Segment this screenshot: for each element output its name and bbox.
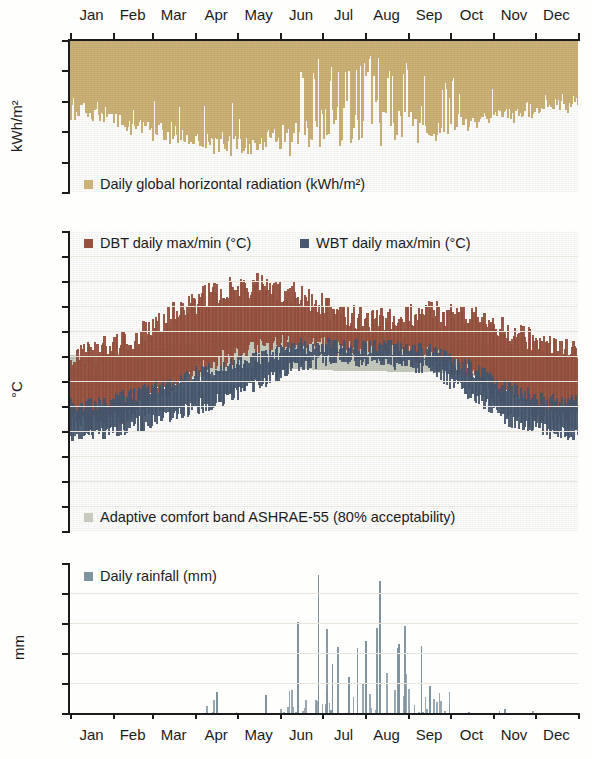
rainfall-notable-event-bar — [429, 686, 431, 713]
temperature-y-axis-line — [68, 231, 70, 533]
month-label-may: May — [244, 726, 272, 743]
rainfall-notable-event-bar — [297, 622, 299, 714]
x-tick — [535, 713, 537, 719]
legend-radiation: Daily global horizontal radiation (kWh/m… — [84, 176, 365, 192]
dbt-legend-swatch — [84, 239, 93, 248]
month-label-nov: Nov — [501, 6, 528, 23]
x-tick — [195, 33, 197, 39]
rainfall-day-bar — [357, 648, 359, 713]
radiation-y-axis-line — [68, 40, 70, 194]
radiation-series — [70, 40, 578, 192]
rainfall-notable-event-bar — [365, 641, 367, 713]
rainfall-day-bar — [305, 700, 307, 713]
rainfall-day-bar — [440, 701, 442, 713]
gridline — [70, 306, 578, 307]
x-tick — [237, 33, 239, 39]
rainfall-legend-swatch — [84, 572, 93, 581]
x-tick — [152, 713, 154, 719]
x-tick — [195, 713, 197, 719]
month-label-oct: Oct — [460, 6, 483, 23]
temperature-y-axis-title: °C — [8, 381, 25, 398]
month-label-mar: Mar — [161, 726, 187, 743]
x-tick — [408, 33, 410, 39]
month-label-dec: Dec — [543, 726, 570, 743]
rainfall-y-axis-line — [68, 563, 70, 715]
wbt-legend-swatch — [300, 239, 309, 248]
x-tick — [70, 33, 72, 39]
month-label-apr: Apr — [204, 726, 227, 743]
x-tick — [152, 33, 154, 39]
climate-analysis-figure: JanFebMarAprMayJunJulAugSepOctNovDec kWh… — [0, 0, 592, 759]
x-tick — [365, 713, 367, 719]
gridline — [70, 653, 578, 654]
rainfall-day-bar — [213, 700, 215, 713]
rainfall-notable-event-bar — [318, 575, 320, 713]
dbt-legend-label: DBT daily max/min (°C) — [100, 235, 251, 251]
x-tick — [365, 33, 367, 39]
rainfall-day-bar — [408, 689, 410, 713]
month-label-feb: Feb — [120, 726, 146, 743]
radiation-legend-swatch — [84, 180, 93, 189]
gridline — [70, 381, 578, 382]
month-label-feb: Feb — [120, 6, 146, 23]
legend-rainfall: Daily rainfall (mm) — [84, 568, 217, 584]
x-tick — [113, 713, 115, 719]
rainfall-day-bar — [206, 706, 208, 713]
x-tick — [322, 33, 324, 39]
x-tick — [450, 713, 452, 719]
rainfall-day-bar — [436, 702, 438, 713]
x-tick — [450, 33, 452, 39]
rainfall-day-bar — [322, 704, 324, 713]
gridline — [70, 506, 578, 507]
rainfall-series — [70, 563, 578, 713]
month-label-jan: Jan — [79, 6, 103, 23]
x-tick — [578, 713, 580, 719]
legend-wbt: WBT daily max/min (°C) — [300, 235, 471, 251]
gridline — [70, 406, 578, 407]
x-tick — [535, 33, 537, 39]
x-tick — [280, 713, 282, 719]
rainfall-plot-area — [70, 563, 578, 713]
wbt-legend-label: WBT daily max/min (°C) — [316, 235, 471, 251]
month-label-jul: Jul — [334, 726, 353, 743]
temperature-plot-area — [70, 231, 578, 531]
gridline — [70, 593, 578, 594]
month-label-jan: Jan — [79, 726, 103, 743]
month-label-aug: Aug — [373, 726, 400, 743]
rainfall-y-axis-title: mm — [10, 635, 27, 660]
radiation-x-axis-line — [68, 39, 580, 41]
rainfall-day-bar — [405, 674, 407, 713]
radiation-day-bar — [577, 40, 578, 105]
radiation-plot-area — [70, 40, 578, 192]
gridline — [70, 623, 578, 624]
comfort-band-legend-swatch — [84, 513, 93, 522]
radiation-legend-label: Daily global horizontal radiation (kWh/m… — [100, 176, 365, 192]
rainfall-day-bar — [386, 673, 388, 713]
rainfall-notable-event-bar — [216, 692, 218, 713]
rainfall-day-bar — [394, 690, 396, 713]
month-label-may: May — [244, 6, 272, 23]
rainfall-day-bar — [289, 691, 291, 713]
gridline — [70, 356, 578, 357]
month-label-jul: Jul — [334, 6, 353, 23]
rainfall-notable-event-bar — [421, 646, 423, 714]
gridline — [70, 331, 578, 332]
month-label-dec: Dec — [543, 6, 570, 23]
month-label-jun: Jun — [289, 726, 313, 743]
rainfall-notable-event-bar — [398, 644, 400, 713]
x-tick — [493, 713, 495, 719]
rainfall-day-bar — [362, 684, 364, 713]
x-tick — [237, 713, 239, 719]
month-label-sep: Sep — [416, 726, 443, 743]
x-tick — [280, 33, 282, 39]
x-tick — [493, 33, 495, 39]
month-label-aug: Aug — [373, 6, 400, 23]
rainfall-day-bar — [337, 647, 339, 713]
month-label-jun: Jun — [289, 6, 313, 23]
rainfall-day-bar — [449, 692, 451, 713]
x-tick — [408, 713, 410, 719]
gridline — [70, 256, 578, 257]
x-tick — [70, 713, 72, 719]
rainfall-notable-event-bar — [379, 581, 381, 713]
month-label-oct: Oct — [460, 726, 483, 743]
